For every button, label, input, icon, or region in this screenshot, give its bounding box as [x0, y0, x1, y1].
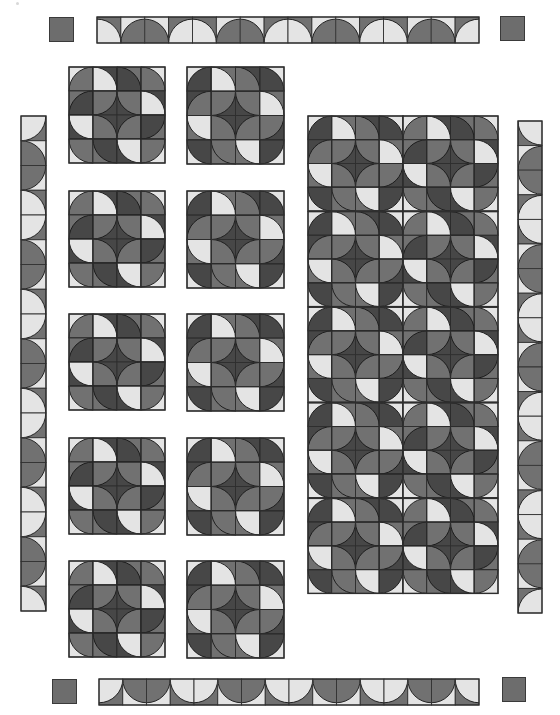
- block-cells: [187, 561, 284, 658]
- corner-square-top-right: [500, 16, 525, 41]
- corner-square-bottom-left: [52, 679, 77, 704]
- block-cells: [308, 212, 403, 307]
- block-cells: [403, 116, 498, 211]
- block-cells: [69, 67, 165, 163]
- block-cells: [403, 212, 498, 307]
- block-cells: [403, 403, 498, 498]
- border-bottom: [98, 678, 480, 706]
- large-panel: [307, 115, 499, 595]
- block-a1: [68, 66, 166, 164]
- block-b5: [186, 560, 285, 659]
- block-cells: [69, 561, 165, 657]
- corner-square-top-left: [49, 17, 74, 42]
- block-cells: [69, 438, 165, 534]
- block-cells: [308, 498, 403, 593]
- stray-mark: [16, 2, 19, 5]
- block-a5: [68, 560, 166, 658]
- block-a4: [68, 437, 166, 535]
- block-cells: [187, 438, 284, 535]
- block-cells: [403, 498, 498, 593]
- corner-square-bottom-right: [502, 677, 526, 702]
- block-cells: [69, 191, 165, 287]
- block-cells: [187, 191, 284, 288]
- block-cells: [69, 314, 165, 410]
- block-cells: [308, 403, 403, 498]
- block-b3: [186, 313, 285, 412]
- block-b4: [186, 437, 285, 536]
- block-cells: [403, 307, 498, 402]
- block-b1: [186, 66, 285, 165]
- block-a3: [68, 313, 166, 411]
- border-top: [96, 16, 480, 44]
- block-a2: [68, 190, 166, 288]
- border-left: [20, 115, 47, 612]
- block-cells: [308, 307, 403, 402]
- block-b2: [186, 190, 285, 289]
- block-cells: [187, 67, 284, 164]
- block-cells: [308, 116, 403, 211]
- block-cells: [187, 314, 284, 411]
- border-right: [517, 120, 543, 614]
